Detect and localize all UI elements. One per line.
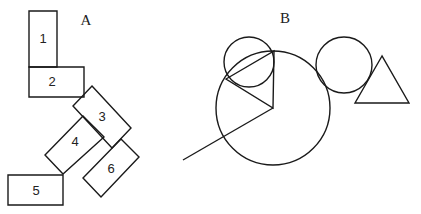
- diagram-canvas: A 123456 B: [0, 0, 421, 214]
- diagram-b-label: B: [280, 10, 290, 26]
- rectangle-6-label: 6: [107, 161, 114, 176]
- right-circle: [316, 37, 372, 93]
- rectangle-4-label: 4: [71, 134, 78, 149]
- rectangle-2: [29, 67, 84, 97]
- rectangle-5-label: 5: [32, 183, 39, 198]
- radial-line: [183, 108, 273, 160]
- rectangle-2-label: 2: [48, 74, 55, 89]
- rectangle-1-label: 1: [39, 31, 46, 46]
- small-circle: [224, 37, 274, 87]
- diagram-b: B: [183, 10, 409, 165]
- rectangle-3-label: 3: [98, 109, 105, 124]
- diagram-a: A 123456: [8, 11, 139, 205]
- right-triangle: [355, 56, 409, 103]
- rectangles-group: 123456: [8, 11, 139, 205]
- diagram-a-label: A: [81, 12, 92, 28]
